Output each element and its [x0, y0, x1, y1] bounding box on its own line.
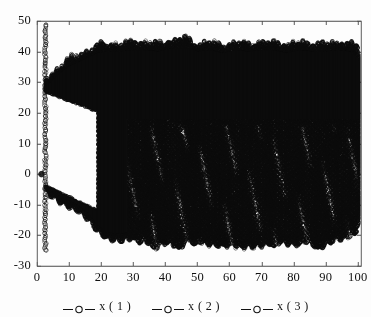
legend-label-x2: x ( 2 ) — [188, 299, 220, 314]
legend-entry: x ( 1 ) — [62, 299, 131, 314]
y-tick-label: -10 — [14, 198, 31, 211]
legend-entry: x ( 3 ) — [240, 299, 309, 314]
y-tick-label: -20 — [14, 228, 31, 241]
legend-marker-circle-icon — [62, 301, 96, 312]
legend-label-x3: x ( 3 ) — [277, 299, 309, 314]
chart-figure: -30-20-1001020304050 0102030405060708090… — [0, 0, 371, 317]
y-tick-label: 40 — [18, 45, 31, 58]
y-tick-label: 10 — [18, 137, 31, 150]
legend-marker-circle-icon — [151, 301, 185, 312]
legend-marker-circle-icon — [240, 301, 274, 312]
y-tick-label: 20 — [18, 106, 31, 119]
chart-plot-canvas — [0, 0, 371, 317]
y-tick-label: 0 — [25, 167, 31, 180]
x-tick-label: 100 — [338, 271, 371, 284]
y-tick-label: 50 — [18, 14, 31, 27]
legend-label-x1: x ( 1 ) — [99, 299, 131, 314]
chart-legend: x ( 1 ) x ( 2 ) x ( 3 ) — [0, 299, 371, 314]
legend-entry: x ( 2 ) — [151, 299, 220, 314]
y-tick-label: 30 — [18, 75, 31, 88]
